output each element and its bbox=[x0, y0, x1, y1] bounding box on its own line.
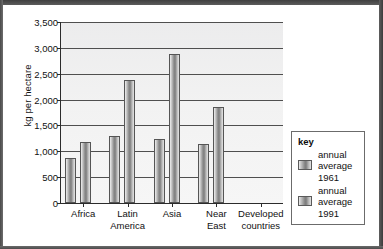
bar bbox=[109, 136, 120, 203]
bar-group: Africa bbox=[61, 22, 105, 203]
bar bbox=[124, 80, 135, 203]
scanned-page: kg per hectare 05001,0001,5002,0002,5003… bbox=[0, 0, 383, 249]
y-axis-tick-label: 2,000 bbox=[34, 94, 58, 105]
x-axis-tick-mark bbox=[83, 203, 84, 207]
bar bbox=[198, 144, 209, 203]
bar-group: Developed countries bbox=[239, 22, 283, 203]
y-axis-tick-label: 3,000 bbox=[34, 42, 58, 53]
scan-border-top bbox=[0, 0, 383, 5]
chart-legend: key annual average 1961 annual average 1… bbox=[291, 131, 365, 225]
x-axis-tick-mark bbox=[128, 203, 129, 207]
y-axis-label: kg per hectare bbox=[22, 51, 33, 141]
legend-swatch-1961 bbox=[298, 160, 312, 170]
bar bbox=[213, 107, 224, 203]
legend-swatch-1991 bbox=[298, 196, 312, 206]
y-axis-tick-label: 1,000 bbox=[34, 146, 58, 157]
x-axis-tick-mark bbox=[261, 203, 262, 207]
y-axis-tick-label: 2,500 bbox=[34, 68, 58, 79]
x-axis-tick-mark bbox=[172, 203, 173, 207]
y-axis-tick-label: 500 bbox=[42, 172, 58, 183]
legend-title: key bbox=[298, 136, 314, 147]
bar bbox=[154, 139, 165, 203]
bar-chart: kg per hectare 05001,0001,5002,0002,5003… bbox=[4, 6, 294, 246]
legend-label-1991: annual average 1991 bbox=[318, 185, 352, 219]
y-axis-tick-mark bbox=[57, 203, 61, 204]
bar bbox=[65, 158, 76, 203]
bar bbox=[169, 54, 180, 203]
x-axis-tick-label: Developed countries bbox=[233, 208, 289, 231]
bar bbox=[80, 142, 91, 203]
x-axis-tick-mark bbox=[216, 203, 217, 207]
bar-group: Asia bbox=[150, 22, 194, 203]
y-axis-tick-label: 1,500 bbox=[34, 120, 58, 131]
y-axis-tick-label: 3,500 bbox=[34, 17, 58, 28]
bar-group: Near East bbox=[194, 22, 238, 203]
scan-border-left bbox=[0, 0, 3, 249]
legend-label-1961: annual average 1961 bbox=[318, 149, 352, 183]
scan-border-right bbox=[379, 0, 383, 249]
bar-group: Latin America bbox=[105, 22, 149, 203]
plot-area: 05001,0001,5002,0002,5003,0003,500Africa… bbox=[60, 22, 283, 203]
